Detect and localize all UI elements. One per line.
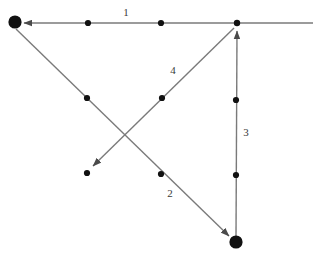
edge-label-2: 2 xyxy=(167,187,173,199)
nodes-layer xyxy=(8,15,242,248)
edge-labels-layer: 1 4 3 2 xyxy=(123,6,249,199)
node-diag-nw-mid xyxy=(84,95,90,101)
edge-2-line xyxy=(16,29,229,236)
node-diag4-mid xyxy=(159,95,165,101)
node-terminal-top-left xyxy=(8,15,21,28)
node-top-mid-right xyxy=(158,20,164,26)
edge-label-4: 4 xyxy=(170,64,176,76)
node-diag-sw-end xyxy=(84,170,90,176)
node-junction-top-right xyxy=(234,20,240,26)
edge-label-3: 3 xyxy=(243,126,249,138)
edges-layer xyxy=(16,23,313,236)
node-top-mid-left xyxy=(85,20,91,26)
edge-3-line xyxy=(236,31,237,236)
diagram-canvas: 1 4 3 2 xyxy=(0,0,320,260)
node-diag2-mid xyxy=(158,171,164,177)
graph-diagram-svg: 1 4 3 2 xyxy=(0,0,320,260)
node-terminal-bottom xyxy=(229,235,242,248)
node-vertical-lower xyxy=(233,172,239,178)
edge-label-1: 1 xyxy=(123,6,129,18)
node-vertical-upper xyxy=(233,97,239,103)
